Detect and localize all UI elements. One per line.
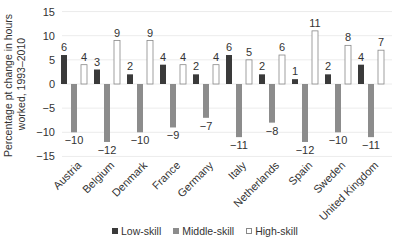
data-label: 4 — [160, 51, 166, 63]
bar-low-skill — [94, 70, 100, 84]
data-label: −11 — [230, 139, 248, 151]
y-tick-label: −10 — [36, 126, 55, 138]
bar-middle-skill — [302, 84, 308, 142]
x-category-label: United Kingdom — [317, 159, 381, 223]
data-label: 4 — [180, 51, 186, 63]
data-label: 2 — [259, 60, 265, 72]
y-axis-ticks: 151050−5−10−15 — [36, 6, 55, 163]
bar-low-skill — [160, 65, 166, 84]
bar-low-skill — [292, 79, 298, 84]
bar-high-skill — [213, 65, 219, 84]
x-category-label: Spain — [286, 159, 314, 187]
y-axis-label-line1: Percentage pt change in hours — [2, 14, 14, 157]
data-label: 6 — [279, 41, 285, 53]
data-label: −10 — [131, 134, 150, 146]
data-label: 3 — [94, 56, 100, 68]
x-category-label: France — [150, 159, 183, 192]
bar-middle-skill — [335, 84, 341, 132]
y-tick-label: 5 — [49, 54, 55, 66]
data-label: −12 — [98, 144, 117, 156]
data-label: 2 — [193, 60, 199, 72]
y-tick-label: 0 — [49, 78, 55, 90]
data-label: −12 — [296, 144, 315, 156]
bar-low-skill — [127, 74, 133, 84]
bar-chart: 151050−5−10−15 Percentage pt change in h… — [0, 0, 394, 225]
data-label: 8 — [345, 31, 351, 43]
bar-low-skill — [61, 55, 67, 84]
x-category-label: Germany — [175, 159, 216, 200]
bar-middle-skill — [137, 84, 143, 132]
bar-middle-skill — [104, 84, 110, 142]
y-tick-label: −15 — [36, 150, 55, 162]
bar-middle-skill — [236, 84, 242, 137]
bar-low-skill — [325, 74, 331, 84]
y-tick-label: −5 — [42, 102, 55, 114]
data-label: −11 — [362, 139, 380, 151]
bar-middle-skill — [203, 84, 209, 118]
low-skill-swatch — [112, 228, 118, 234]
data-label: 2 — [325, 60, 331, 72]
high-skill-swatch — [246, 228, 252, 234]
data-label: −10 — [65, 134, 84, 146]
bars: 6−1043−1292−1094−942−746−1152−861−12112−… — [61, 17, 384, 156]
bar-high-skill — [114, 41, 120, 84]
data-label: −9 — [167, 129, 180, 141]
data-label: 1 — [292, 65, 298, 77]
bar-high-skill — [147, 41, 153, 84]
legend-item-middle-skill: Middle-skill — [173, 225, 234, 237]
middle-skill-swatch — [173, 228, 179, 234]
data-label: 2 — [127, 60, 133, 72]
y-axis-label: Percentage pt change in hours worked, 19… — [2, 11, 27, 157]
legend-label: Middle-skill — [182, 225, 234, 237]
data-label: 4 — [358, 51, 364, 63]
data-label: 4 — [213, 51, 219, 63]
data-label: 6 — [61, 41, 67, 53]
bar-high-skill — [345, 45, 351, 84]
data-label: 5 — [246, 46, 252, 58]
bar-middle-skill — [170, 84, 176, 127]
legend: Low-skill Middle-skill High-skill — [112, 225, 298, 237]
data-label: 7 — [378, 36, 384, 48]
bar-high-skill — [180, 65, 186, 84]
legend-item-low-skill: Low-skill — [112, 225, 161, 237]
bar-low-skill — [358, 65, 364, 84]
x-axis-categories: AustriaBelgiumDenmarkFranceGermanyItalyN… — [51, 158, 381, 222]
bar-high-skill — [81, 65, 87, 84]
data-label: 9 — [147, 27, 153, 39]
bar-high-skill — [246, 60, 252, 84]
bar-low-skill — [226, 55, 232, 84]
y-tick-label: 10 — [43, 30, 55, 42]
data-label: −10 — [329, 134, 348, 146]
data-label: −8 — [266, 125, 279, 137]
bar-middle-skill — [269, 84, 275, 123]
bar-low-skill — [259, 74, 265, 84]
legend-label: Low-skill — [121, 225, 161, 237]
x-category-label: Denmark — [109, 159, 149, 199]
data-label: 9 — [114, 27, 120, 39]
legend-item-high-skill: High-skill — [246, 225, 298, 237]
y-tick-label: 15 — [43, 6, 55, 18]
data-label: 6 — [226, 41, 232, 53]
bar-low-skill — [193, 74, 199, 84]
data-label: 11 — [309, 17, 320, 29]
y-axis-label-line2: worked, 1993–2010 — [15, 38, 27, 131]
bar-middle-skill — [368, 84, 374, 137]
legend-label: High-skill — [255, 225, 298, 237]
data-label: 4 — [81, 51, 87, 63]
bar-high-skill — [378, 50, 384, 84]
data-label: −7 — [200, 120, 213, 132]
x-category-label: Italy — [226, 159, 249, 182]
bar-middle-skill — [71, 84, 77, 132]
bar-high-skill — [312, 31, 318, 84]
bar-high-skill — [279, 55, 285, 84]
